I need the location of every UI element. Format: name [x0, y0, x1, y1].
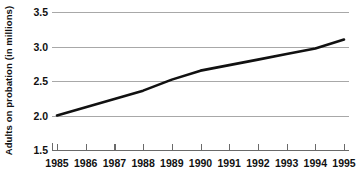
series-line-adults-on-probation	[57, 40, 344, 116]
x-axis-tick-label: 1986	[74, 157, 97, 169]
x-axis-tick-label: 1995	[332, 157, 355, 169]
x-axis-tick-label: 1987	[103, 157, 126, 169]
x-axis-tick-label: 1994	[304, 157, 327, 169]
y-axis-tick-labels: 3.53.02.52.01.5	[18, 0, 51, 182]
x-axis-tick-label: 1990	[189, 157, 212, 169]
x-axis-tick-label: 1988	[131, 157, 154, 169]
x-axis-tick-label: 1992	[246, 157, 269, 169]
x-axis-tick-label: 1993	[275, 157, 298, 169]
y-axis-label: Adults on probation (in millions)	[0, 0, 18, 160]
series-line-layer	[52, 0, 349, 182]
y-axis-tick-label: 3.0	[33, 41, 48, 53]
x-axis-tick-label: 1991	[218, 157, 241, 169]
y-axis-tick-label: 3.5	[33, 6, 48, 18]
y-axis-label-text: Adults on probation (in millions)	[4, 5, 15, 154]
y-axis-tick-label: 2.5	[33, 75, 48, 87]
x-axis-tick-label: 1989	[160, 157, 183, 169]
y-axis-tick-label: 2.0	[33, 110, 48, 122]
y-axis-tick-label: 1.5	[33, 144, 48, 156]
plot-area	[52, 0, 349, 182]
line-chart: Adults on probation (in millions) 3.53.0…	[0, 0, 362, 182]
x-axis-tick-label: 1985	[45, 157, 68, 169]
